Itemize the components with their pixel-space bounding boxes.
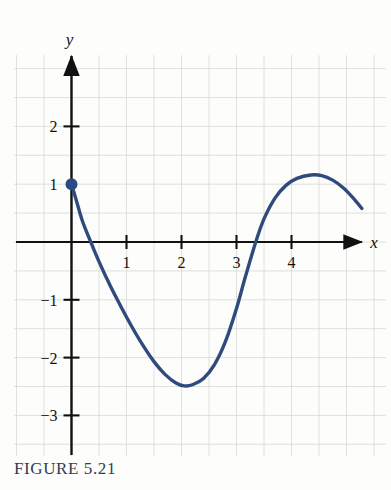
x-tick-label-3: 3 [233, 254, 241, 271]
axes [16, 56, 362, 455]
x-axis-label: x [369, 233, 378, 252]
data-points [67, 179, 77, 189]
figure-container: 123421−1−2−3 yx FIGURE 5.21 [0, 0, 391, 490]
y-tick-label-−1: −1 [40, 292, 57, 309]
y-tick-label-1: 1 [50, 176, 58, 193]
gridlines [14, 55, 386, 456]
initial-value-dot [67, 179, 77, 189]
y-axis-label: y [64, 30, 74, 49]
graph-plot: 123421−1−2−3 yx [0, 0, 391, 470]
y-tick-label-−3: −3 [40, 407, 57, 424]
x-tick-label-4: 4 [288, 254, 296, 271]
y-tick-label-2: 2 [50, 118, 58, 135]
x-tick-label-1: 1 [123, 254, 131, 271]
axis-letters: yx [64, 30, 379, 252]
figure-caption: FIGURE 5.21 [14, 459, 116, 479]
function-curve [72, 175, 362, 386]
x-tick-label-2: 2 [178, 254, 186, 271]
y-tick-label-−2: −2 [40, 350, 57, 367]
curve-curve [72, 175, 362, 386]
